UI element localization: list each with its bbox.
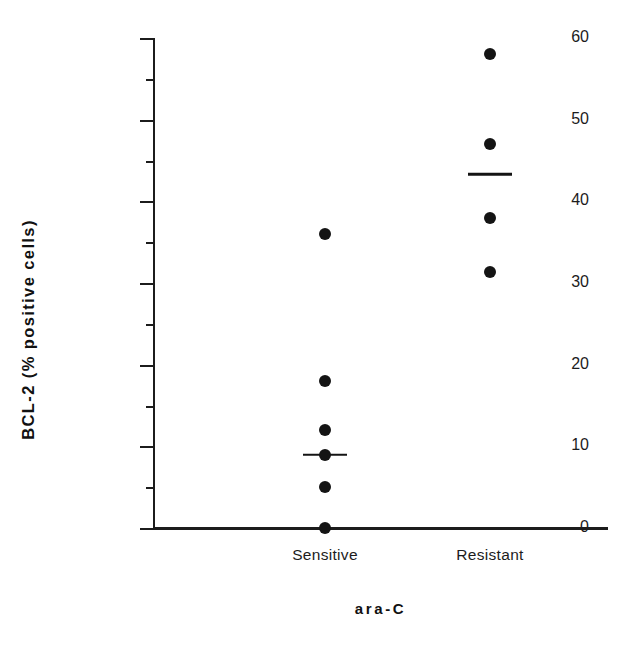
y-tick-minor-45 bbox=[146, 161, 153, 163]
y-tick-label-10: 10 bbox=[571, 437, 589, 453]
chart-figure: BCL-2 (% positive cells) 60 50 40 30 20 … bbox=[0, 0, 633, 659]
y-tick-major-40 bbox=[140, 201, 153, 203]
y-tick-minor-35 bbox=[146, 242, 153, 244]
y-tick-major-60 bbox=[140, 38, 153, 40]
x-category-label-sensitive: Sensitive bbox=[292, 546, 358, 564]
y-tick-major-50 bbox=[140, 120, 153, 122]
y-tick-major-30 bbox=[140, 283, 153, 285]
y-tick-minor-25 bbox=[146, 324, 153, 326]
data-point-sensitive-36 bbox=[319, 228, 331, 240]
y-axis-title: BCL-2 (% positive cells) bbox=[0, 0, 56, 659]
data-point-sensitive-12 bbox=[319, 424, 331, 436]
data-point-sensitive-0 bbox=[319, 522, 331, 534]
y-tick-major-0 bbox=[140, 528, 153, 530]
y-tick-label-40: 40 bbox=[571, 192, 589, 208]
y-tick-minor-15 bbox=[146, 406, 153, 408]
data-point-resistant-31.3 bbox=[484, 266, 496, 278]
x-category-label-resistant: Resistant bbox=[456, 546, 523, 564]
y-tick-major-20 bbox=[140, 365, 153, 367]
data-point-sensitive-9 bbox=[319, 449, 331, 461]
y-tick-major-10 bbox=[140, 446, 153, 448]
y-tick-minor-55 bbox=[146, 79, 153, 81]
y-axis-line bbox=[153, 38, 155, 529]
y-tick-label-20: 20 bbox=[571, 356, 589, 372]
data-point-sensitive-5 bbox=[319, 481, 331, 493]
y-tick-label-50: 50 bbox=[571, 111, 589, 127]
y-tick-minor-5 bbox=[146, 487, 153, 489]
y-tick-label-0: 0 bbox=[580, 519, 589, 535]
mean-bar-resistant bbox=[468, 173, 512, 176]
y-tick-label-60: 60 bbox=[571, 29, 589, 45]
data-point-sensitive-18 bbox=[319, 375, 331, 387]
y-tick-label-30: 30 bbox=[571, 274, 589, 290]
data-point-resistant-38 bbox=[484, 212, 496, 224]
data-point-resistant-47 bbox=[484, 138, 496, 150]
plot-area: 60 50 40 30 20 10 0 Se bbox=[153, 38, 608, 528]
data-point-resistant-58 bbox=[484, 48, 496, 60]
x-axis-title: ara-C bbox=[153, 600, 608, 617]
x-axis-line bbox=[153, 527, 608, 530]
